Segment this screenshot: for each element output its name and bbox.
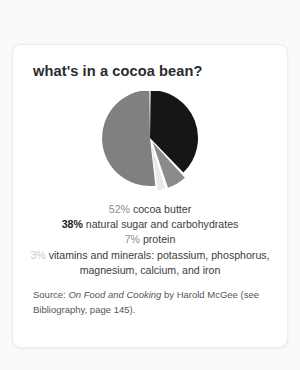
pie-chart — [13, 91, 287, 199]
legend-percent-sugar-carbohydrates: 38% — [62, 218, 83, 230]
pie-slice-cocoa-butter — [102, 91, 155, 186]
source-book-title: On Food and Cooking — [68, 289, 161, 300]
legend-label-cocoa-butter: cocoa butter — [130, 203, 191, 215]
legend-label-protein: protein — [140, 233, 175, 245]
pie-chart-svg — [13, 91, 287, 199]
legend-percent-cocoa-butter: 52% — [109, 203, 130, 215]
cocoa-bean-info-card: what's in a cocoa bean? 52% cocoa butter… — [12, 44, 288, 348]
legend-percent-vitamins-minerals: 3% — [30, 249, 45, 261]
page-title: what's in a cocoa bean? — [33, 63, 203, 79]
legend-item-protein: 7% protein — [23, 232, 277, 247]
legend-item-sugar-carbohydrates: 38% natural sugar and carbohydrates — [23, 217, 277, 232]
legend-item-vitamins-minerals: 3% vitamins and minerals: potassium, pho… — [23, 248, 277, 278]
legend-list: 52% cocoa butter 38% natural sugar and c… — [23, 202, 277, 278]
source-author: by Harold McGee — [161, 289, 238, 300]
source-prefix: Source: — [33, 289, 68, 300]
pie-slice-natural-sugar-and-carbohydrates — [150, 91, 198, 173]
legend-percent-protein: 7% — [125, 233, 140, 245]
legend-label-vitamins-minerals: vitamins and minerals: potassium, phosph… — [46, 249, 270, 276]
source-note: Source: On Food and Cooking by Harold Mc… — [33, 288, 271, 317]
pie-slice-group — [102, 91, 198, 190]
legend-item-cocoa-butter: 52% cocoa butter — [23, 202, 277, 217]
legend-label-sugar-carbohydrates: natural sugar and carbohydrates — [83, 218, 238, 230]
